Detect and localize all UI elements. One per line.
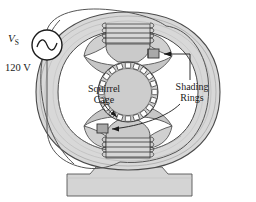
source-symbol-text: V	[8, 32, 15, 44]
shading-ring-upper	[148, 49, 159, 58]
rotor-bar	[125, 116, 130, 121]
shading-rings-label-line2: Rings	[166, 93, 218, 104]
shading-ring-lower	[97, 124, 108, 133]
rotor-bar	[133, 114, 140, 121]
rotor-bar	[133, 63, 140, 70]
motor-base	[67, 167, 192, 196]
squirrel-cage-label: Squirrel Cage	[79, 84, 129, 105]
ac-source-symbol	[32, 30, 62, 60]
bottom-field-coil	[102, 137, 154, 158]
shading-rings-label: Shading Rings	[166, 82, 218, 103]
shading-rings-label-line1: Shading	[166, 82, 218, 93]
source-subscript-text: S	[15, 38, 19, 47]
rotor-bar	[125, 63, 130, 68]
rotor-bar	[150, 80, 157, 87]
rotor-bar	[150, 97, 157, 104]
rotor-bar	[152, 89, 157, 94]
top-field-coil	[102, 23, 154, 44]
figure-canvas: VS 120 V Squirrel Cage Shading Rings	[0, 0, 256, 202]
rotor-bar	[116, 114, 123, 121]
source-label: VS	[8, 33, 19, 47]
squirrel-cage-label-line1: Squirrel	[79, 84, 129, 95]
rotor-bar	[116, 63, 123, 70]
source-voltage-label: 120 V	[5, 62, 31, 73]
squirrel-cage-label-line2: Cage	[79, 95, 129, 106]
